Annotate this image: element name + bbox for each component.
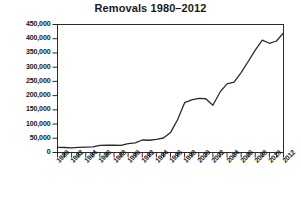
y-axis-tick-label: 0 <box>47 148 51 155</box>
y-axis-tick-label: 200,000 <box>26 91 51 98</box>
plot-area <box>0 0 301 197</box>
chart-figure: Removals 1980–2012 450,000400,000350,000… <box>0 0 301 197</box>
y-axis-tick-label: 400,000 <box>26 34 51 41</box>
y-axis-tick-label: 150,000 <box>26 105 51 112</box>
y-axis-tick-label: 250,000 <box>26 77 51 84</box>
y-axis-tick-label: 450,000 <box>26 20 51 27</box>
y-axis-tick-label: 350,000 <box>26 48 51 55</box>
y-axis-tick-label: 300,000 <box>26 63 51 70</box>
y-axis-tick-label: 100,000 <box>26 120 51 127</box>
y-axis-tick-label: 50,000 <box>30 134 51 141</box>
y-axis-tick-marks <box>53 25 58 153</box>
